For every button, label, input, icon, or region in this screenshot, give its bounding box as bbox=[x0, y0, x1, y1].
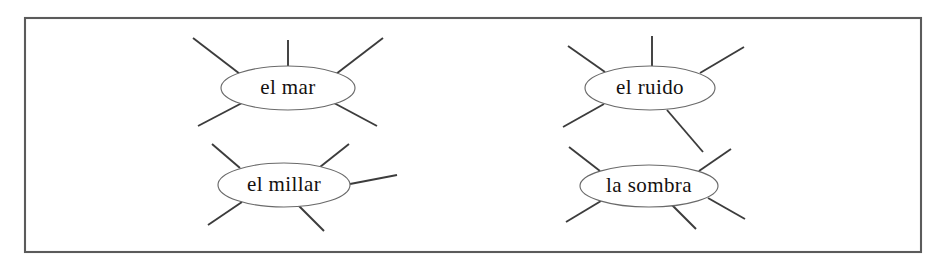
bubble-label-el-ruido: el ruido bbox=[616, 75, 684, 99]
association-ray-la-sombra-bottom-center[interactable] bbox=[671, 204, 696, 229]
worksheet-frame-border bbox=[25, 18, 921, 252]
association-ray-el-millar-bottom-right[interactable] bbox=[298, 205, 324, 231]
word-bubble-el-millar[interactable]: el millar bbox=[208, 144, 397, 231]
bubble-label-el-millar: el millar bbox=[247, 172, 321, 196]
association-ray-el-mar-top-right[interactable] bbox=[336, 38, 383, 74]
association-ray-el-ruido-top-right[interactable] bbox=[700, 47, 744, 73]
association-ray-el-ruido-bottom-right[interactable] bbox=[667, 110, 703, 152]
association-ray-la-sombra-bottom-left[interactable] bbox=[566, 201, 601, 222]
association-ray-el-mar-top-left[interactable] bbox=[193, 38, 240, 74]
word-web-diagram: el marel ruidoel millarla sombra bbox=[0, 0, 944, 270]
association-ray-la-sombra-top-left[interactable] bbox=[569, 147, 600, 171]
bubble-label-la-sombra: la sombra bbox=[606, 173, 692, 197]
association-ray-el-ruido-bottom-left[interactable] bbox=[563, 104, 604, 127]
association-ray-el-millar-top-right[interactable] bbox=[320, 144, 349, 167]
association-ray-la-sombra-bottom-right[interactable] bbox=[708, 198, 745, 219]
association-ray-el-millar-top-left[interactable] bbox=[212, 144, 240, 168]
word-bubble-el-mar[interactable]: el mar bbox=[193, 38, 383, 126]
association-ray-la-sombra-top-right[interactable] bbox=[699, 149, 731, 171]
word-bubble-la-sombra[interactable]: la sombra bbox=[566, 147, 745, 229]
association-ray-el-millar-bottom-left[interactable] bbox=[208, 202, 242, 225]
association-ray-el-ruido-top-left[interactable] bbox=[568, 46, 605, 72]
association-ray-el-mar-bottom-left[interactable] bbox=[198, 103, 242, 126]
bubble-label-el-mar: el mar bbox=[260, 75, 315, 99]
word-bubble-el-ruido[interactable]: el ruido bbox=[563, 36, 744, 152]
word-bubble-group: el marel ruidoel millarla sombra bbox=[193, 36, 745, 231]
association-ray-el-millar-right[interactable] bbox=[350, 175, 397, 184]
worksheet-page: el marel ruidoel millarla sombra bbox=[0, 0, 944, 270]
association-ray-el-mar-bottom-right[interactable] bbox=[334, 103, 377, 126]
